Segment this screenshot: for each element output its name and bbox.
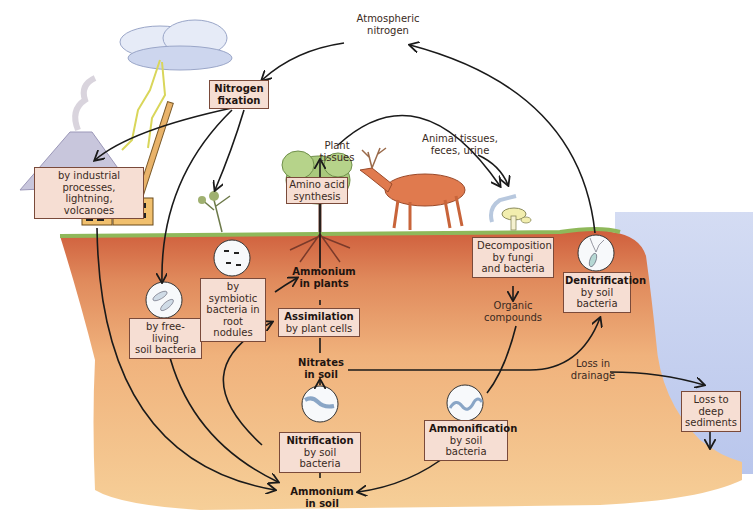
nitrogen-cycle-scene	[0, 0, 753, 522]
label-line: by soil bacteria	[429, 435, 503, 458]
label-organic-compounds: Organic compounds	[478, 300, 548, 323]
label-line: Nitrification	[284, 435, 356, 447]
box-free-living-bacteria: by free-living soil bacteria	[129, 318, 202, 359]
label-line: Amino acid	[289, 179, 345, 191]
label-line: deep	[683, 406, 739, 418]
label-line: by soil	[565, 287, 629, 299]
lightning-bolt	[122, 60, 160, 150]
mushrooms	[491, 196, 531, 230]
denitrifying-bacteria-icon	[578, 235, 614, 271]
label-line: by free-living	[134, 321, 197, 344]
label-ammonium-in-plants: Ammonium in plants	[292, 266, 356, 289]
label-line: in soil	[293, 369, 349, 381]
label-line: Atmospheric	[348, 13, 428, 25]
label-line: by industrial processes,	[39, 170, 139, 193]
box-industrial-processes: by industrial processes, lightning, volc…	[34, 167, 144, 219]
label-line: lightning, volcanoes	[39, 193, 139, 216]
label-line: by soil bacteria	[284, 447, 356, 470]
label-ammonium-in-soil: Ammonium in soil	[290, 486, 354, 509]
label-line: Nitrogen	[214, 83, 264, 95]
label-line: Plant	[314, 140, 360, 152]
nitrifying-bacteria-icon	[302, 386, 338, 422]
label-line: Denitrification	[565, 275, 629, 287]
label-line: Ammonium	[290, 486, 354, 498]
label-line: soil bacteria	[134, 344, 197, 356]
label-plant-tissues: Plant tissues	[314, 140, 360, 163]
storm-cloud	[120, 20, 232, 70]
ammonifying-bacteria-icon	[447, 385, 483, 421]
label-line: synthesis	[289, 191, 345, 203]
label-nitrates-in-soil: Nitrates in soil	[293, 357, 349, 380]
label-line: nitrogen	[348, 25, 428, 37]
label-line: compounds	[478, 312, 548, 324]
label-line: Organic	[478, 300, 548, 312]
label-line: Assimilation	[283, 311, 355, 323]
legume-plant	[198, 191, 230, 232]
free-living-bacteria-icon	[146, 282, 182, 318]
label-line: tissues	[314, 152, 360, 164]
box-ammonification: Ammonification by soil bacteria	[424, 420, 508, 461]
label-line: by symbiotic	[205, 281, 261, 304]
box-loss-to-deep-sediments: Loss to deep sediments	[681, 391, 741, 432]
box-assimilation: Assimilation by plant cells	[278, 308, 360, 337]
label-line: Loss in	[570, 358, 616, 370]
label-line: root nodules	[205, 316, 261, 339]
box-symbiotic-bacteria: by symbiotic bacteria in root nodules	[200, 278, 266, 342]
label-line: fixation	[214, 95, 264, 107]
box-nitrification: Nitrification by soil bacteria	[279, 432, 361, 473]
label-animal-tissues: Animal tissues, feces, urine	[412, 133, 508, 156]
label-line: Loss to	[683, 394, 739, 406]
box-amino-acid-synthesis: Amino acid synthesis	[286, 177, 348, 204]
label-line: drainage	[570, 370, 616, 382]
label-line: bacteria in	[205, 304, 261, 316]
nodule-bacteria-icon	[214, 240, 250, 276]
label-line: Ammonium	[292, 266, 356, 278]
label-line: Nitrates	[293, 357, 349, 369]
label-line: Animal tissues,	[412, 133, 508, 145]
box-nitrogen-fixation: Nitrogen fixation	[209, 80, 269, 109]
label-line: in plants	[292, 278, 356, 290]
label-line: in soil	[290, 498, 354, 510]
label-atmospheric-nitrogen: Atmospheric nitrogen	[348, 13, 428, 36]
label-line: by plant cells	[283, 323, 355, 335]
box-denitrification: Denitrification by soil bacteria	[563, 272, 631, 313]
label-line: Ammonification	[429, 423, 503, 435]
box-decomposition: Decomposition by fungi and bacteria	[472, 237, 554, 278]
label-loss-in-drainage: Loss in drainage	[570, 358, 616, 381]
deer	[360, 148, 465, 230]
label-line: sediments	[683, 417, 739, 429]
label-line: bacteria	[565, 298, 629, 310]
label-line: by fungi	[477, 252, 549, 264]
label-line: and bacteria	[477, 263, 549, 275]
label-line: feces, urine	[412, 145, 508, 157]
label-line: Decomposition	[477, 240, 549, 252]
